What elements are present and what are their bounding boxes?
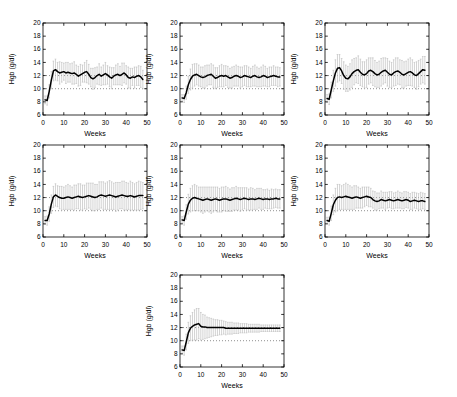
x-tick-label-30: 30 bbox=[239, 241, 247, 248]
error-bars bbox=[326, 183, 425, 225]
chart-svg-2: 0102030405068101214161820WeeksHgb (g/dl) bbox=[142, 15, 294, 145]
y-tick-label-14: 14 bbox=[33, 181, 41, 188]
x-tick-label-40: 40 bbox=[123, 241, 131, 248]
x-tick-label-10: 10 bbox=[197, 241, 205, 248]
axis-box bbox=[325, 145, 429, 237]
y-tick-label-8: 8 bbox=[174, 220, 178, 227]
y-tick-label-12: 12 bbox=[170, 324, 178, 331]
x-axis-label: Weeks bbox=[366, 252, 388, 259]
y-axis-label: Hgb (g/dl) bbox=[145, 54, 153, 85]
error-bars bbox=[44, 180, 143, 225]
x-tick-label-10: 10 bbox=[342, 241, 350, 248]
y-tick-label-10: 10 bbox=[170, 85, 178, 92]
y-tick-label-12: 12 bbox=[170, 194, 178, 201]
x-tick-label-10: 10 bbox=[60, 119, 68, 126]
x-tick-label-0: 0 bbox=[178, 119, 182, 126]
x-tick-label-10: 10 bbox=[60, 241, 68, 248]
y-tick-label-18: 18 bbox=[315, 154, 323, 161]
y-tick-label-18: 18 bbox=[315, 32, 323, 39]
y-tick-label-8: 8 bbox=[319, 98, 323, 105]
x-tick-label-50: 50 bbox=[425, 241, 433, 248]
y-tick-label-18: 18 bbox=[170, 284, 178, 291]
tick-marks bbox=[325, 145, 429, 237]
x-tick-label-40: 40 bbox=[260, 119, 268, 126]
x-tick-label-20: 20 bbox=[218, 119, 226, 126]
y-tick-label-14: 14 bbox=[33, 59, 41, 66]
x-axis-label: Weeks bbox=[84, 130, 106, 137]
x-axis-label: Weeks bbox=[221, 130, 243, 137]
x-tick-label-30: 30 bbox=[384, 119, 392, 126]
y-tick-label-16: 16 bbox=[33, 167, 41, 174]
y-tick-label-14: 14 bbox=[315, 181, 323, 188]
subplot-3: 0102030405068101214161820WeeksHgb (g/dl) bbox=[287, 15, 439, 145]
y-tick-label-6: 6 bbox=[319, 111, 323, 118]
y-tick-label-18: 18 bbox=[170, 32, 178, 39]
x-tick-label-20: 20 bbox=[363, 119, 371, 126]
y-tick-label-20: 20 bbox=[170, 141, 178, 148]
y-tick-label-20: 20 bbox=[33, 141, 41, 148]
y-tick-label-8: 8 bbox=[37, 220, 41, 227]
y-tick-label-20: 20 bbox=[170, 19, 178, 26]
x-tick-label-30: 30 bbox=[102, 241, 110, 248]
y-tick-label-20: 20 bbox=[315, 141, 323, 148]
y-tick-label-16: 16 bbox=[315, 167, 323, 174]
y-tick-label-12: 12 bbox=[33, 194, 41, 201]
x-tick-label-0: 0 bbox=[323, 119, 327, 126]
x-tick-label-40: 40 bbox=[405, 119, 413, 126]
y-tick-label-20: 20 bbox=[315, 19, 323, 26]
x-tick-label-50: 50 bbox=[425, 119, 433, 126]
chart-svg-3: 0102030405068101214161820WeeksHgb (g/dl) bbox=[287, 15, 439, 145]
x-tick-label-40: 40 bbox=[123, 119, 131, 126]
y-tick-label-20: 20 bbox=[33, 19, 41, 26]
y-tick-label-16: 16 bbox=[170, 167, 178, 174]
subplot-1: 0102030405068101214161820WeeksHgb (g/dl) bbox=[5, 15, 157, 145]
subplot-4: 0102030405068101214161820WeeksHgb (g/dl) bbox=[5, 137, 157, 267]
y-tick-label-6: 6 bbox=[37, 233, 41, 240]
x-tick-label-0: 0 bbox=[178, 241, 182, 248]
chart-svg-1: 0102030405068101214161820WeeksHgb (g/dl) bbox=[5, 15, 157, 145]
x-tick-label-40: 40 bbox=[260, 241, 268, 248]
y-tick-label-12: 12 bbox=[315, 194, 323, 201]
figure: 0102030405068101214161820WeeksHgb (g/dl)… bbox=[0, 0, 457, 397]
error-bars bbox=[181, 309, 280, 356]
x-tick-label-0: 0 bbox=[41, 119, 45, 126]
y-tick-label-10: 10 bbox=[315, 207, 323, 214]
y-tick-label-14: 14 bbox=[170, 181, 178, 188]
x-tick-label-20: 20 bbox=[218, 371, 226, 378]
y-tick-label-6: 6 bbox=[174, 363, 178, 370]
tick-marks bbox=[180, 275, 284, 367]
x-tick-label-20: 20 bbox=[81, 241, 89, 248]
error-bars bbox=[44, 59, 143, 105]
x-axis-label: Weeks bbox=[221, 382, 243, 389]
y-tick-label-12: 12 bbox=[170, 72, 178, 79]
y-tick-label-8: 8 bbox=[174, 350, 178, 357]
y-tick-label-10: 10 bbox=[315, 85, 323, 92]
chart-svg-6: 0102030405068101214161820WeeksHgb (g/dl) bbox=[287, 137, 439, 267]
y-tick-label-10: 10 bbox=[170, 207, 178, 214]
y-tick-label-6: 6 bbox=[174, 111, 178, 118]
subplot-7: 0102030405068101214161820WeeksHgb (g/dl) bbox=[142, 267, 294, 397]
x-axis-label: Weeks bbox=[366, 130, 388, 137]
y-tick-label-16: 16 bbox=[170, 45, 178, 52]
x-tick-label-30: 30 bbox=[239, 371, 247, 378]
error-bars bbox=[181, 64, 280, 103]
y-tick-label-12: 12 bbox=[33, 72, 41, 79]
x-tick-label-30: 30 bbox=[102, 119, 110, 126]
x-tick-label-50: 50 bbox=[280, 371, 288, 378]
y-tick-label-14: 14 bbox=[170, 311, 178, 318]
chart-svg-7: 0102030405068101214161820WeeksHgb (g/dl) bbox=[142, 267, 294, 397]
y-axis-label: Hgb (g/dl) bbox=[145, 306, 153, 337]
y-tick-label-16: 16 bbox=[33, 45, 41, 52]
y-tick-label-10: 10 bbox=[170, 337, 178, 344]
y-axis-label: Hgb (g/dl) bbox=[145, 176, 153, 207]
chart-svg-5: 0102030405068101214161820WeeksHgb (g/dl) bbox=[142, 137, 294, 267]
x-tick-label-40: 40 bbox=[405, 241, 413, 248]
x-axis-label: Weeks bbox=[84, 252, 106, 259]
subplot-5: 0102030405068101214161820WeeksHgb (g/dl) bbox=[142, 137, 294, 267]
y-tick-label-6: 6 bbox=[174, 233, 178, 240]
axis-box bbox=[180, 275, 284, 367]
x-tick-label-10: 10 bbox=[197, 119, 205, 126]
chart-svg-4: 0102030405068101214161820WeeksHgb (g/dl) bbox=[5, 137, 157, 267]
y-tick-label-6: 6 bbox=[37, 111, 41, 118]
y-tick-label-12: 12 bbox=[315, 72, 323, 79]
